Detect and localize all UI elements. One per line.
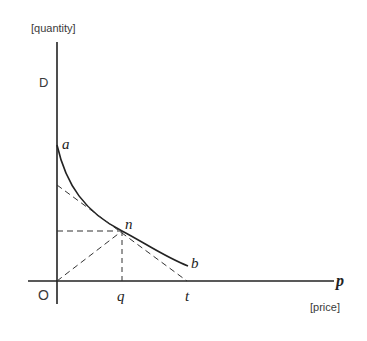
diagram-canvas: [quantity] D a n b O q t p [price] bbox=[0, 0, 367, 341]
point-b-label: b bbox=[191, 255, 199, 271]
demand-curve-diagram: [quantity] D a n b O q t p [price] bbox=[0, 0, 367, 341]
demand-curve bbox=[57, 145, 188, 266]
point-a-label: a bbox=[62, 136, 70, 152]
x-axis-name-label: p bbox=[334, 272, 344, 290]
point-q-label: q bbox=[117, 288, 125, 304]
point-t-label: t bbox=[185, 288, 190, 304]
y-axis-name-label: D bbox=[39, 75, 48, 90]
y-axis-unit-label: [quantity] bbox=[31, 22, 76, 34]
point-n-label: n bbox=[125, 216, 133, 232]
x-axis-unit-label: [price] bbox=[310, 301, 340, 313]
origin-label: O bbox=[38, 287, 49, 303]
ray-from-origin bbox=[57, 231, 122, 281]
